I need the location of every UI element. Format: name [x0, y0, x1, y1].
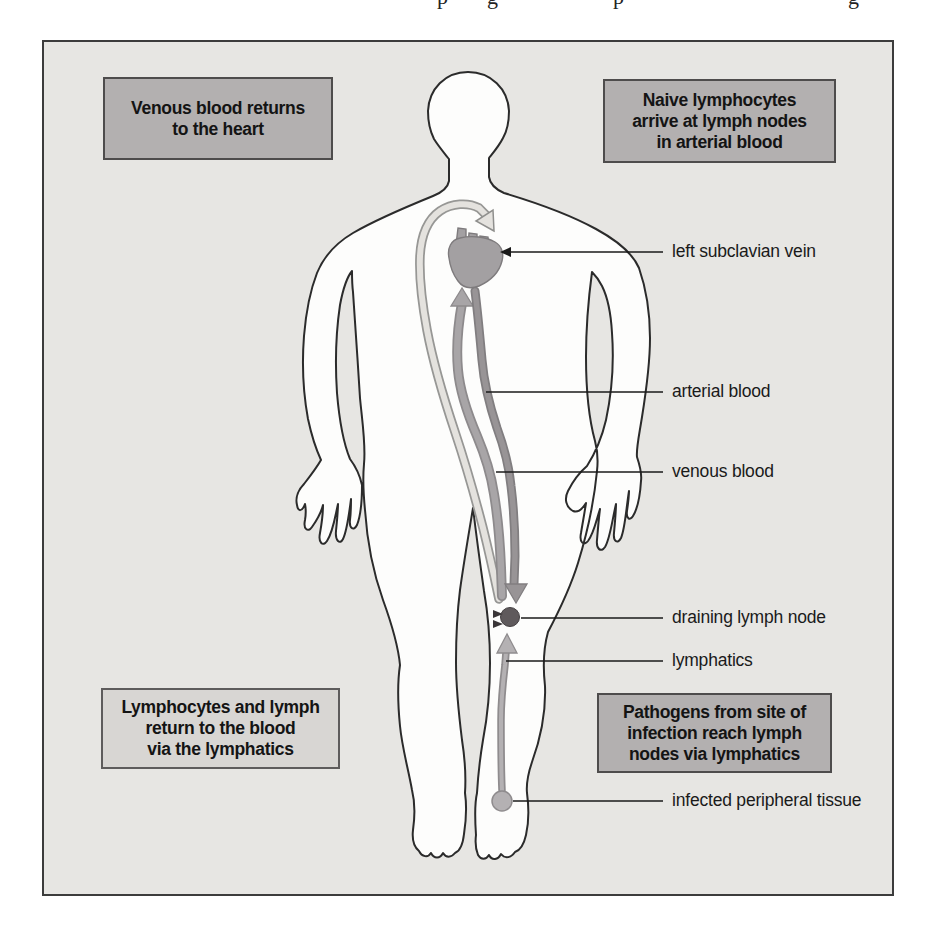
- callout-lymphocytes-return: Lymphocytes and lymph return to the bloo…: [101, 688, 340, 769]
- callout-line: in arterial blood: [656, 132, 782, 153]
- textbook-figure-page: p g p g Venous blood returns to the hear…: [0, 0, 937, 933]
- callout-venous-returns: Venous blood returns to the heart: [103, 77, 333, 160]
- label-infected-peripheral-tissue: infected peripheral tissue: [672, 790, 861, 811]
- callout-line: via the lymphatics: [147, 739, 293, 760]
- callout-line: Naive lymphocytes: [643, 90, 796, 111]
- label-lymphatics: lymphatics: [672, 650, 753, 671]
- callout-pathogens-reach-nodes: Pathogens from site of infection reach l…: [597, 693, 832, 773]
- callout-line: Venous blood returns: [131, 98, 305, 119]
- label-venous-blood: venous blood: [672, 461, 774, 482]
- callout-line: Pathogens from site of: [623, 702, 806, 723]
- infected-tissue-dot: [492, 791, 512, 811]
- label-arterial-blood: arterial blood: [672, 381, 770, 402]
- callout-line: return to the blood: [146, 718, 296, 739]
- callout-line: nodes via lymphatics: [629, 744, 800, 765]
- label-draining-lymph-node: draining lymph node: [672, 607, 826, 628]
- callout-line: arrive at lymph nodes: [632, 111, 807, 132]
- callout-line: infection reach lymph: [627, 723, 802, 744]
- draining-lymph-node-dot: [501, 608, 520, 627]
- callout-naive-lymphocytes: Naive lymphocytes arrive at lymph nodes …: [603, 79, 836, 163]
- label-left-subclavian-vein: left subclavian vein: [672, 241, 816, 262]
- callout-line: to the heart: [172, 119, 264, 140]
- callout-line: Lymphocytes and lymph: [121, 697, 319, 718]
